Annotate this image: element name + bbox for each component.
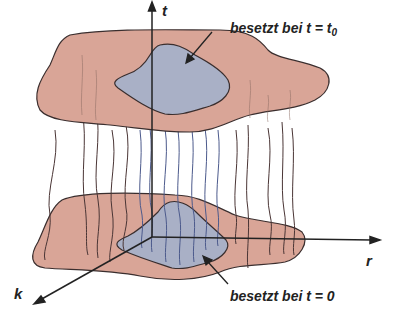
phase-space-diagram <box>0 0 396 321</box>
top-annotation-text: besetzt bei t = t <box>230 20 332 36</box>
top-annotation-subscript: 0 <box>332 27 338 38</box>
k-axis-label: k <box>14 285 22 302</box>
bottom-annotation: besetzt bei t = 0 <box>230 288 335 304</box>
t-axis-label: t <box>162 2 167 19</box>
k-axis-arrowhead <box>34 296 45 304</box>
r-axis-arrowhead <box>370 237 380 244</box>
r-axis-label: r <box>366 252 372 269</box>
top-annotation: besetzt bei t = t0 <box>230 20 337 36</box>
t-axis-arrowhead <box>149 2 156 11</box>
